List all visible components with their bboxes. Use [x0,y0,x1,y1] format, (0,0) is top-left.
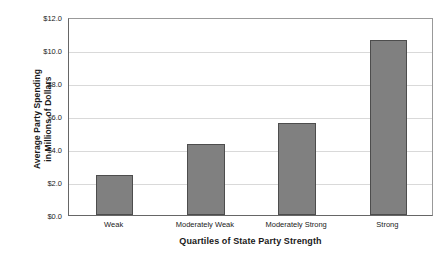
x-axis-title: Quartiles of State Party Strength [68,236,433,246]
y-axis-tick-label: $12.0 [22,14,62,23]
bar [278,123,315,215]
bar [187,144,224,215]
plot-area [68,18,433,216]
bar [96,175,133,215]
x-axis-tick-label: Weak [104,220,123,229]
y-axis-tick-label: $2.0 [22,179,62,188]
bars-group [69,19,432,215]
bar [370,40,407,215]
x-axis-tick-label: Moderately Strong [265,220,326,229]
y-axis-tick-labels: $0.0$2.0$4.0$6.0$8.0$10.0$12.0 [22,18,62,216]
bar-chart: Average Party Spending in Millions of Do… [0,0,438,262]
x-axis-tick-label: Moderately Weak [176,220,234,229]
y-axis-tick-label: $8.0 [22,80,62,89]
y-axis-tick-label: $6.0 [22,113,62,122]
x-axis-tick-labels: WeakModerately WeakModerately StrongStro… [68,220,433,234]
x-axis-tick-label: Strong [376,220,398,229]
y-axis-tick-label: $4.0 [22,146,62,155]
y-axis-tick-label: $0.0 [22,212,62,221]
y-axis-tick-label: $10.0 [22,47,62,56]
